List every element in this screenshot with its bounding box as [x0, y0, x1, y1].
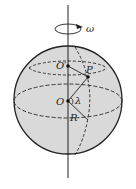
sphere-diagram: ω O′ P O λ R — [0, 0, 136, 189]
label-lambda: λ — [74, 95, 81, 106]
point-p — [86, 75, 90, 79]
point-o — [66, 99, 70, 103]
point-o-prime — [66, 64, 70, 68]
arrow-head-icon — [76, 24, 83, 29]
label-o: O — [56, 96, 64, 107]
label-omega: ω — [86, 23, 94, 34]
label-r: R — [69, 112, 78, 123]
label-p: P — [85, 64, 93, 75]
label-o-prime: O′ — [56, 60, 67, 71]
